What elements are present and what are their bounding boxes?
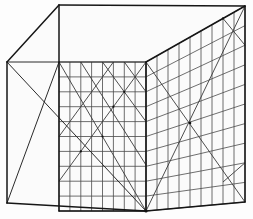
vertex-dot: [144, 209, 147, 212]
vertex-dot: [189, 122, 192, 125]
vertex-dot: [101, 135, 103, 137]
figure-container: Wireframe cube with subdivided faces: [0, 0, 253, 219]
face-fills: [7, 5, 245, 211]
cube-edge-top-back: [59, 5, 245, 6]
vertex-dot: [222, 17, 224, 19]
wireframe-cube-diagram: [0, 0, 253, 219]
vertex-dot: [80, 150, 82, 152]
vertex-dot: [123, 91, 125, 93]
vertex-dot: [112, 106, 114, 108]
